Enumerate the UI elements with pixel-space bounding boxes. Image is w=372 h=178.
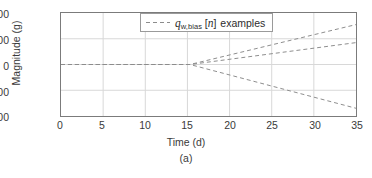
legend-box: qw,bias[n]examples [140,13,273,32]
legend-bracket-close: ] [213,17,216,29]
x-tick-label-15: 15 [167,120,207,130]
x-tick-label-0: 0 [40,120,80,130]
series-line-3 [61,65,356,109]
y-axis-label: Magnitude (g) [10,3,22,103]
figure-panel-a: Magnitude (g) 200 100 0 -100 -200 0 5 10… [0,0,372,178]
figure-caption: (a) [0,152,372,164]
legend-entry-label: qw,bias[n]examples [175,17,265,29]
y-tick-label-100: 100 [0,35,9,45]
x-tick-label-10: 10 [125,120,165,130]
legend-subscript: w,bias [181,22,202,31]
y-tick-label-0: 0 [0,61,9,71]
y-tick-label-200: 200 [0,9,9,19]
y-tick-label-neg200: -200 [0,112,9,122]
x-tick-label-25: 25 [252,120,292,130]
data-lines [61,25,356,109]
legend-dash-swatch [146,18,170,27]
x-axis-label: Time (d) [0,136,372,148]
series-line-2 [61,43,356,65]
y-tick-label-neg100: -100 [0,87,9,97]
x-tick-label-20: 20 [210,120,250,130]
x-tick-label-35: 35 [337,120,372,130]
x-tick-label-30: 30 [295,120,335,130]
legend-suffix-word: examples [220,17,265,29]
x-tick-label-5: 5 [82,120,122,130]
